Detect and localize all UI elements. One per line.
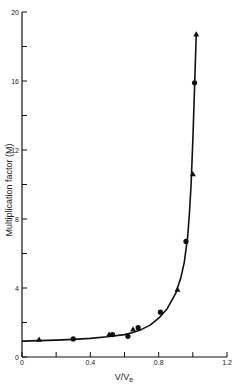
circle-marker — [192, 80, 197, 85]
x-tick-label: 0 — [20, 359, 24, 366]
circle-marker — [125, 334, 130, 339]
y-axis-title: Multiplication factor (M) — [4, 143, 14, 236]
triangle-marker — [174, 287, 180, 292]
x-tick-label: 0.4 — [85, 359, 95, 366]
multiplication-factor-chart: 00.40.81.2048121620 V/Ve Multiplication … — [0, 0, 238, 385]
triangle-marker — [130, 326, 136, 331]
circle-marker — [71, 336, 76, 341]
triangle-marker — [36, 337, 42, 342]
y-tick-label: 16 — [11, 78, 19, 85]
x-tick-label: 1.2 — [222, 359, 232, 366]
axes: 00.40.81.2048121620 — [11, 9, 232, 367]
fit-curve — [22, 33, 196, 341]
y-tick-label: 0 — [15, 354, 19, 361]
y-tick-label: 20 — [11, 9, 19, 16]
triangle-marker — [193, 31, 199, 36]
x-tick-label: 0.8 — [154, 359, 164, 366]
y-tick-label: 8 — [15, 216, 19, 223]
circle-marker — [158, 310, 163, 315]
fit-curve-path — [22, 33, 196, 341]
y-tick-label: 4 — [15, 285, 19, 292]
circle-marker — [136, 325, 141, 330]
circle-marker — [183, 239, 188, 244]
x-axis-title: V/Ve — [115, 372, 134, 383]
